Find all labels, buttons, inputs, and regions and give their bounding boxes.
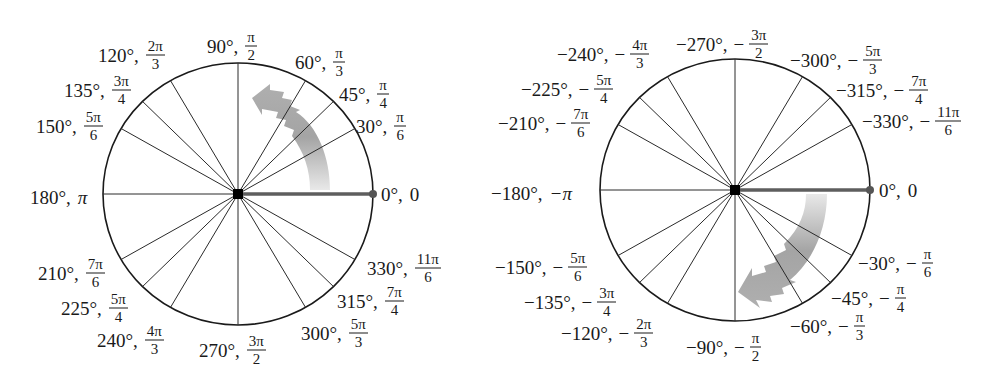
numerator: 3π [749,28,768,45]
spoke-line [143,101,239,194]
radian-fraction: 5π4 [594,73,613,106]
radian-fraction: 7π6 [86,257,105,290]
angle-label-30: 30°, π6 [356,110,406,143]
denominator: 6 [92,274,100,290]
numerator: 3π [247,334,266,351]
spoke-line [668,77,736,190]
degree-value: −120°, [561,324,613,343]
angle-label-45: 45°, π4 [339,78,389,111]
denominator: 3 [856,327,864,343]
numerator: 5π [594,73,613,90]
denominator: 2 [755,45,763,61]
degree-value: 225°, [61,299,102,318]
angle-label-90: 90°, π2 [207,30,257,63]
angle-label-neg-30: −30°, − π6 [858,247,933,280]
denominator: 6 [574,268,582,284]
numerator: 3π [597,286,616,303]
angle-label-135: 135°, 3π4 [64,74,131,107]
numerator: 4π [145,324,164,341]
degree-value: 315°, [337,292,378,311]
center-point [730,185,740,195]
radian-fraction: 7π6 [571,107,590,140]
denominator: 6 [424,269,432,285]
degree-value: 270°, [199,341,240,360]
degree-value: −135°, [524,293,576,312]
denominator: 4 [118,91,126,107]
radian-fraction: 3π4 [597,286,616,319]
radian-fraction: 5π6 [84,110,103,143]
minus-sign: − [894,81,905,100]
positive-circle-group [103,63,377,325]
spoke-line [735,97,831,190]
denominator: 6 [945,122,953,138]
minus-sign: − [734,35,745,54]
spoke-line [238,194,355,260]
numerator: 7π [86,257,105,274]
angle-label-neg-0: 0°, 0 [879,181,917,200]
radian-fraction: 3π2 [749,28,768,61]
radian-fraction: π2 [245,30,257,63]
spoke-line [238,194,306,307]
angle-label-neg-135: −135°, − 3π4 [524,286,616,319]
degree-value: −45°, [831,289,873,308]
radian-fraction: 5π6 [568,251,587,284]
degree-value: 45°, [339,85,370,104]
spoke-line [735,125,852,191]
minus-sign: − [848,51,859,70]
denominator: 6 [396,127,404,143]
degree-value: −180°, [491,184,543,203]
degree-value: 0°, [381,185,403,204]
angle-label-neg-150: −150°, − 5π6 [495,251,587,284]
numerator: 7π [909,74,928,91]
radian-fraction: 2π3 [634,317,653,350]
minus-sign: − [582,293,593,312]
spoke-line [121,194,238,260]
spoke-line [618,190,735,256]
numerator: 11π [415,252,441,269]
degree-value: −300°, [790,51,842,70]
minus-sign: − [920,112,931,131]
denominator: 4 [379,95,387,111]
denominator: 6 [924,264,932,280]
angle-label-150: 150°, 5π6 [36,110,103,143]
angle-label-neg-90: −90°, − π2 [686,331,761,364]
numerator: π [895,282,907,299]
spoke-line [121,129,238,195]
spoke-line [171,81,239,194]
minus-sign: − [615,45,626,64]
numerator: π [750,331,762,348]
spoke-line [640,190,736,283]
angle-label-neg-330: −330°, − 11π6 [862,105,961,138]
degree-value: 90°, [207,37,238,56]
minus-sign: − [556,114,567,133]
radian-value: 0 [908,181,918,200]
numerator: 11π [935,105,961,122]
spoke-line [143,194,239,287]
radian-fraction: π4 [377,78,389,111]
radian-fraction: 11π6 [415,252,441,285]
center-point [233,189,243,199]
spoke-line [735,77,803,190]
denominator: 4 [115,309,123,325]
radian-fraction: 11π6 [935,105,961,138]
numerator: 3π [112,74,131,91]
degree-value: −210°, [498,114,550,133]
angle-label-neg-300: −300°, − 5π3 [790,44,882,77]
denominator: 4 [600,90,608,106]
radian-fraction: 5π3 [349,317,368,350]
numerator: 7π [385,285,404,302]
angle-label-0: 0°, 0 [381,185,419,204]
numerator: π [245,30,257,47]
denominator: 3 [355,334,363,350]
radian-fraction: 4π3 [145,324,164,357]
radian-fraction: π6 [394,110,406,143]
degree-value: −315°, [836,81,888,100]
minus-sign: − [838,317,849,336]
denominator: 3 [152,56,160,72]
denominator: 6 [577,124,585,140]
initial-side-endpoint [866,186,874,194]
numerator: 5π [568,251,587,268]
degree-value: 240°, [97,331,138,350]
minus-sign: − [734,338,745,357]
degree-value: −330°, [862,112,914,131]
